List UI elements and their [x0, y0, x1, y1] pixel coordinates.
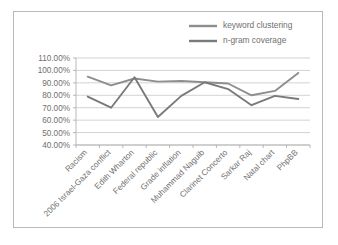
y-tick-label: 110.00%: [38, 54, 70, 63]
y-tick-label: 70.00%: [42, 104, 70, 113]
line-chart: 110.00%100.00%90.00%80.00%70.00%60.00%50…: [14, 12, 324, 229]
y-tick-label: 50.00%: [42, 129, 70, 138]
y-tick-label: 90.00%: [42, 79, 70, 88]
y-tick-label: 40.00%: [42, 141, 70, 150]
gridlines: [76, 58, 310, 145]
y-tick-label: 100.00%: [38, 66, 70, 75]
chart-container: 110.00%100.00%90.00%80.00%70.00%60.00%50…: [13, 11, 323, 228]
x-axis-tick-labels: Racism2006 Israel-Gaza conflictEdith Wha…: [42, 148, 300, 219]
y-axis-tick-labels: 110.00%100.00%90.00%80.00%70.00%60.00%50…: [38, 54, 70, 150]
axis-tick-marks: [73, 58, 310, 148]
y-tick-label: 80.00%: [42, 91, 70, 100]
legend-label-1: keyword clustering: [223, 20, 293, 30]
chart-legend: keyword clusteringn-gram coverage: [189, 20, 293, 45]
series-line-1: [88, 73, 299, 95]
legend-label-2: n-gram coverage: [223, 35, 287, 45]
axis-lines: [76, 58, 310, 145]
y-tick-label: 60.00%: [42, 116, 70, 125]
x-tick-label: PhpBB: [275, 148, 300, 173]
